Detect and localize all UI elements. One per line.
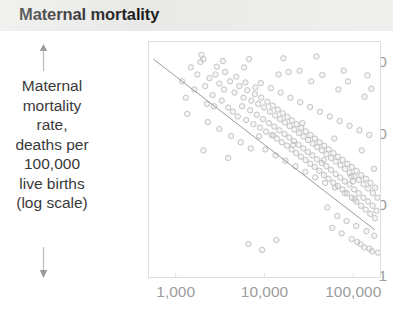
scatter-point — [361, 182, 366, 187]
y-axis-label-line: deaths per — [0, 135, 104, 155]
scatter-point — [230, 109, 235, 114]
scatter-point — [278, 90, 283, 95]
scatter-point — [220, 58, 225, 63]
scatter-point — [248, 146, 253, 151]
scatter-point — [324, 164, 329, 169]
scatter-point — [261, 105, 266, 110]
scatter-point — [362, 245, 367, 250]
scatter-point — [270, 103, 275, 108]
scatter-point — [320, 72, 325, 77]
scatter-point — [342, 166, 347, 171]
scatter-point — [294, 150, 299, 155]
scatter-point — [363, 207, 368, 212]
scatter-point — [303, 129, 308, 134]
scatter-point — [345, 79, 350, 84]
scatter-point — [259, 95, 264, 100]
scatter-point — [217, 126, 222, 131]
scatter-point — [350, 179, 355, 184]
scatter-point — [282, 120, 287, 125]
scatter-point — [292, 127, 297, 132]
scatter-point — [308, 79, 313, 84]
scatter-point — [362, 94, 367, 99]
scatter-point — [263, 129, 268, 134]
scatter-point — [274, 237, 279, 242]
scatter-point — [370, 203, 375, 208]
scatter-point — [335, 213, 340, 218]
scatter-point — [328, 167, 333, 172]
scatter-point — [256, 101, 261, 106]
scatter-point — [341, 68, 346, 73]
scatter-point — [368, 211, 373, 216]
scatter-point — [312, 164, 317, 169]
y-axis-label-line: Maternal — [0, 76, 104, 96]
scatter-point — [284, 143, 289, 148]
scatter-point — [227, 79, 232, 84]
scatter-point — [222, 69, 227, 74]
scatter-point — [303, 169, 308, 174]
scatter-point — [277, 116, 282, 121]
scatter-point — [375, 195, 380, 200]
scatter-point — [322, 180, 327, 185]
scatter-point — [354, 168, 359, 173]
scatter-point — [243, 117, 248, 122]
scatter-point — [369, 86, 374, 91]
scatter-point — [296, 142, 301, 147]
scatter-point — [317, 168, 322, 173]
scatter-point — [358, 203, 363, 208]
scatter-point — [375, 250, 380, 255]
scatter-canvas — [149, 42, 380, 277]
scatter-point — [331, 150, 336, 155]
scatter-point — [280, 110, 285, 115]
scatter-point — [347, 123, 352, 128]
scatter-point — [199, 52, 204, 57]
scatter-point — [364, 228, 369, 233]
scatter-point — [268, 85, 273, 90]
scatter-point — [297, 68, 302, 73]
scatter-point — [367, 132, 372, 137]
scatter-point — [221, 87, 226, 92]
y-axis-label-line: 100,000 — [0, 154, 104, 174]
scatter-point — [198, 59, 203, 64]
scatter-point — [349, 164, 354, 169]
scatter-point — [237, 83, 242, 88]
scatter-point — [219, 98, 224, 103]
scatter-point — [336, 87, 341, 92]
scatter-point — [340, 157, 345, 162]
scatter-point — [241, 95, 246, 100]
scatter-point — [338, 163, 343, 168]
scatter-point — [368, 180, 373, 185]
scatter-point — [205, 119, 210, 124]
scatter-point — [246, 241, 251, 246]
scatter-point — [232, 90, 237, 95]
scatter-point — [226, 105, 231, 110]
scatter-point — [281, 56, 286, 61]
scatter-point — [245, 88, 250, 93]
scatter-point — [258, 80, 263, 85]
scatter-point — [183, 95, 188, 100]
scatter-point — [286, 69, 291, 74]
scatter-point — [365, 73, 370, 78]
scatter-point — [344, 218, 349, 223]
title-band: Maternal mortality — [0, 0, 393, 31]
scatter-point — [203, 83, 208, 88]
scatter-point — [359, 172, 364, 177]
scatter-point — [272, 124, 277, 129]
scatter-point — [363, 176, 368, 181]
y-axis-label-line: rate, — [0, 115, 104, 135]
scatter-point — [210, 92, 215, 97]
scatter-point — [342, 191, 347, 196]
y-axis-label-line: mortality — [0, 96, 104, 116]
scatter-point — [228, 133, 233, 138]
scatter-point — [352, 196, 357, 201]
scatter-point — [260, 116, 265, 121]
scatter-point — [365, 199, 370, 204]
scatter-point — [327, 114, 332, 119]
scatter-point — [337, 118, 342, 123]
scatter-point — [271, 133, 276, 138]
scatter-point — [252, 91, 257, 96]
scatter-point — [354, 223, 359, 228]
scatter-point — [330, 225, 335, 230]
scatter-point — [282, 131, 287, 136]
scatter-point — [279, 140, 284, 145]
scatter-point — [226, 155, 231, 160]
